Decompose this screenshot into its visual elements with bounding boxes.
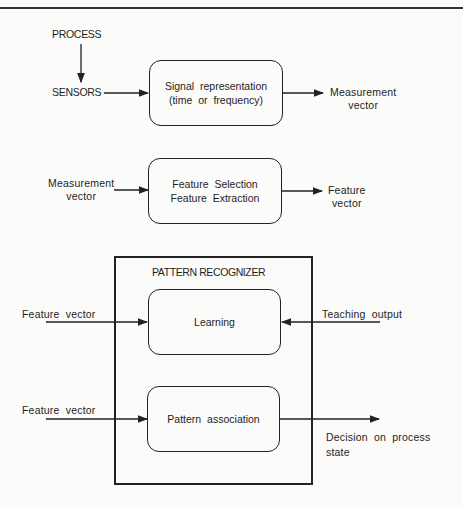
- output-line2: vector: [330, 99, 396, 112]
- feature-vector-learning-input: Feature vector: [22, 308, 96, 321]
- pattern-association-box: Pattern association: [147, 386, 280, 452]
- feature-selection-box: Feature Selection Feature Extraction: [148, 158, 282, 224]
- output-line2: vector: [328, 197, 366, 210]
- teaching-output-label: Teaching output: [322, 308, 402, 321]
- feature-vector-output-label: Feature vector: [328, 184, 366, 210]
- pattern-association-label: Pattern association: [167, 412, 259, 426]
- decision-output-label: Decision on process state: [326, 430, 430, 460]
- feature-box-line1: Feature Selection: [172, 177, 257, 191]
- output-line2: state: [326, 445, 430, 460]
- input-line2: vector: [48, 190, 114, 203]
- input-line1: Measurement: [48, 177, 114, 190]
- process-label: PROCESS: [52, 28, 101, 41]
- feature-vector-association-input: Feature vector: [22, 404, 96, 417]
- signal-box-line2: (time or frequency): [169, 93, 263, 107]
- output-line1: Measurement: [330, 86, 396, 99]
- measurement-vector-output-label: Measurement vector: [330, 86, 396, 112]
- sensors-label: SENSORS: [52, 86, 101, 99]
- feature-box-line2: Feature Extraction: [171, 191, 260, 205]
- signal-box-line1: Signal representation: [165, 79, 267, 93]
- learning-box: Learning: [148, 289, 281, 355]
- learning-label: Learning: [194, 315, 235, 329]
- measurement-vector-input-label: Measurement vector: [48, 177, 114, 203]
- pattern-recognizer-title: PATTERN RECOGNIZER: [152, 266, 265, 279]
- output-line1: Feature: [328, 184, 366, 197]
- output-line1: Decision on process: [326, 430, 430, 445]
- signal-representation-box: Signal representation (time or frequency…: [149, 60, 283, 126]
